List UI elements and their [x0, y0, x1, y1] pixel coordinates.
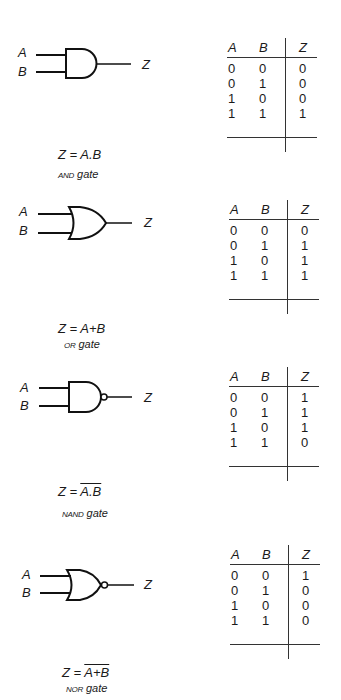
- cell: 0: [259, 92, 266, 106]
- boolean-expression: Z = A.B: [58, 484, 101, 499]
- header-z: Z: [299, 40, 307, 55]
- cell: 1: [231, 614, 238, 628]
- truth-table: A B Z 0 0 1 0 1 1 1 0 1 1 1 0: [229, 369, 319, 484]
- input-label-a: A: [19, 204, 28, 219]
- column-divider: [287, 367, 288, 481]
- input-label-a: A: [22, 567, 31, 582]
- cell: 1: [261, 269, 268, 283]
- header-a: A: [231, 547, 240, 562]
- header-divider: [230, 564, 320, 565]
- header-z: Z: [301, 369, 309, 384]
- cell: 1: [301, 254, 308, 268]
- nand-gate-section: A B Z Z = A.B NAND gate A B Z 0 0 1 0 1 …: [0, 355, 341, 530]
- cell: 1: [261, 239, 268, 253]
- output-label-z: Z: [144, 215, 152, 230]
- cell: 1: [261, 406, 268, 420]
- input-label-b: B: [18, 64, 27, 79]
- header-divider: [229, 219, 319, 220]
- cell: 1: [230, 436, 237, 450]
- cell: 0: [231, 584, 238, 598]
- cell: 1: [302, 569, 309, 583]
- cell: 0: [262, 569, 269, 583]
- cell: 1: [231, 599, 238, 613]
- gate-name: AND gate: [58, 168, 98, 180]
- cell: 0: [262, 599, 269, 613]
- footer-divider: [229, 466, 319, 467]
- output-label-z: Z: [142, 57, 150, 72]
- footer-divider: [230, 644, 320, 645]
- cell: 1: [230, 421, 237, 435]
- cell: 0: [230, 406, 237, 420]
- cell: 0: [231, 569, 238, 583]
- cell: 0: [261, 421, 268, 435]
- cell: 0: [230, 391, 237, 405]
- output-label-z: Z: [144, 577, 152, 592]
- footer-divider: [229, 299, 319, 300]
- column-divider: [287, 200, 288, 314]
- cell: 0: [228, 62, 235, 76]
- cell: 1: [262, 584, 269, 598]
- and-gate-section: A B Z Z = A.B AND gate A B Z 0 0 0 0 1 0…: [0, 0, 341, 185]
- cell: 1: [230, 254, 237, 268]
- footer-divider: [227, 137, 317, 138]
- cell: 0: [299, 62, 306, 76]
- cell: 1: [259, 77, 266, 91]
- cell: 1: [262, 614, 269, 628]
- cell: 1: [230, 269, 237, 283]
- input-label-b: B: [22, 585, 31, 600]
- cell: 0: [301, 436, 308, 450]
- cell: 1: [301, 421, 308, 435]
- truth-table: A B Z 0 0 1 0 1 0 1 0 0 1 1 0: [230, 547, 320, 662]
- input-label-b: B: [20, 398, 29, 413]
- cell: 1: [301, 406, 308, 420]
- input-label-a: A: [18, 45, 27, 60]
- cell: 1: [259, 107, 266, 121]
- header-a: A: [230, 369, 239, 384]
- cell: 0: [259, 62, 266, 76]
- cell: 0: [230, 224, 237, 238]
- truth-table: A B Z 0 0 0 0 1 0 1 0 0 1 1 1: [227, 40, 317, 155]
- gate-name: NAND gate: [62, 507, 108, 519]
- cell: 0: [302, 584, 309, 598]
- header-b: B: [259, 40, 268, 55]
- input-label-b: B: [19, 223, 28, 238]
- cell: 0: [299, 77, 306, 91]
- column-divider: [288, 545, 289, 659]
- cell: 1: [228, 107, 235, 121]
- or-gate-section: A B Z Z = A+B OR gate A B Z 0 0 0 0 1 1 …: [0, 185, 341, 355]
- cell: 1: [301, 269, 308, 283]
- header-b: B: [261, 369, 270, 384]
- boolean-expression: Z = A+B: [62, 665, 109, 680]
- cell: 0: [302, 599, 309, 613]
- header-b: B: [262, 547, 271, 562]
- input-label-a: A: [20, 380, 29, 395]
- cell: 0: [261, 254, 268, 268]
- header-divider: [229, 386, 319, 387]
- cell: 0: [302, 614, 309, 628]
- cell: 0: [228, 77, 235, 91]
- nor-gate-section: A B Z Z = A+B NOR gate A B Z 0 0 1 0 1 0…: [0, 530, 341, 700]
- cell: 0: [230, 239, 237, 253]
- truth-table: A B Z 0 0 0 0 1 1 1 0 1 1 1 1: [229, 202, 319, 317]
- cell: 1: [301, 239, 308, 253]
- gate-name: OR gate: [64, 338, 100, 350]
- header-a: A: [228, 40, 237, 55]
- cell: 0: [299, 92, 306, 106]
- cell: 1: [228, 92, 235, 106]
- cell: 1: [299, 107, 306, 121]
- header-z: Z: [302, 547, 310, 562]
- output-label-z: Z: [144, 390, 152, 405]
- cell: 0: [261, 224, 268, 238]
- header-b: B: [261, 202, 270, 217]
- cell: 1: [301, 391, 308, 405]
- boolean-expression: Z = A.B: [58, 147, 101, 162]
- gate-name: NOR gate: [66, 682, 107, 694]
- header-a: A: [230, 202, 239, 217]
- column-divider: [285, 38, 286, 152]
- boolean-expression: Z = A+B: [58, 321, 105, 336]
- header-z: Z: [301, 202, 309, 217]
- cell: 0: [301, 224, 308, 238]
- header-divider: [227, 57, 317, 58]
- cell: 0: [261, 391, 268, 405]
- cell: 1: [261, 436, 268, 450]
